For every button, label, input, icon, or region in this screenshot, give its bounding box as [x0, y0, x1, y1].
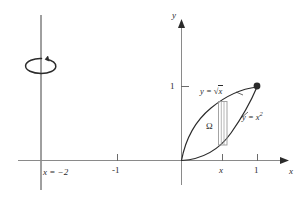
square-curve-path — [182, 87, 258, 161]
y-axis-label: y — [172, 10, 176, 20]
x-axis-arrowhead — [280, 157, 289, 164]
sqrt-label-leader — [236, 92, 243, 95]
sqrt-curve-label-radicand: x — [218, 85, 223, 96]
intersection-point-dot — [254, 83, 261, 90]
square-curve-label-exponent: 2 — [260, 110, 263, 117]
square-curve-label: y = x2 — [242, 112, 263, 122]
sqrt-curve-path — [182, 87, 258, 161]
math-figure: y x 1 -1 x 1 y = √x y = x2 Ω x = −2 — [0, 0, 303, 198]
y-tick-label-1: 1 — [170, 81, 175, 91]
sqrt-curve-label: y = √x — [200, 85, 223, 96]
x-tick-label-minus1: -1 — [112, 165, 120, 175]
representative-strip — [219, 102, 228, 146]
sqrt-curve-label-prefix: y = — [200, 86, 214, 96]
axis-of-revolution-label: x = −2 — [43, 167, 68, 177]
y-axis-arrowhead — [178, 19, 185, 28]
square-curve-label-base: y = x — [242, 112, 260, 122]
omega-region-label: Ω — [206, 121, 213, 131]
x-tick-label-x: x — [219, 165, 223, 175]
x-tick-label-1: 1 — [254, 165, 259, 175]
x-axis-label: x — [289, 166, 293, 176]
